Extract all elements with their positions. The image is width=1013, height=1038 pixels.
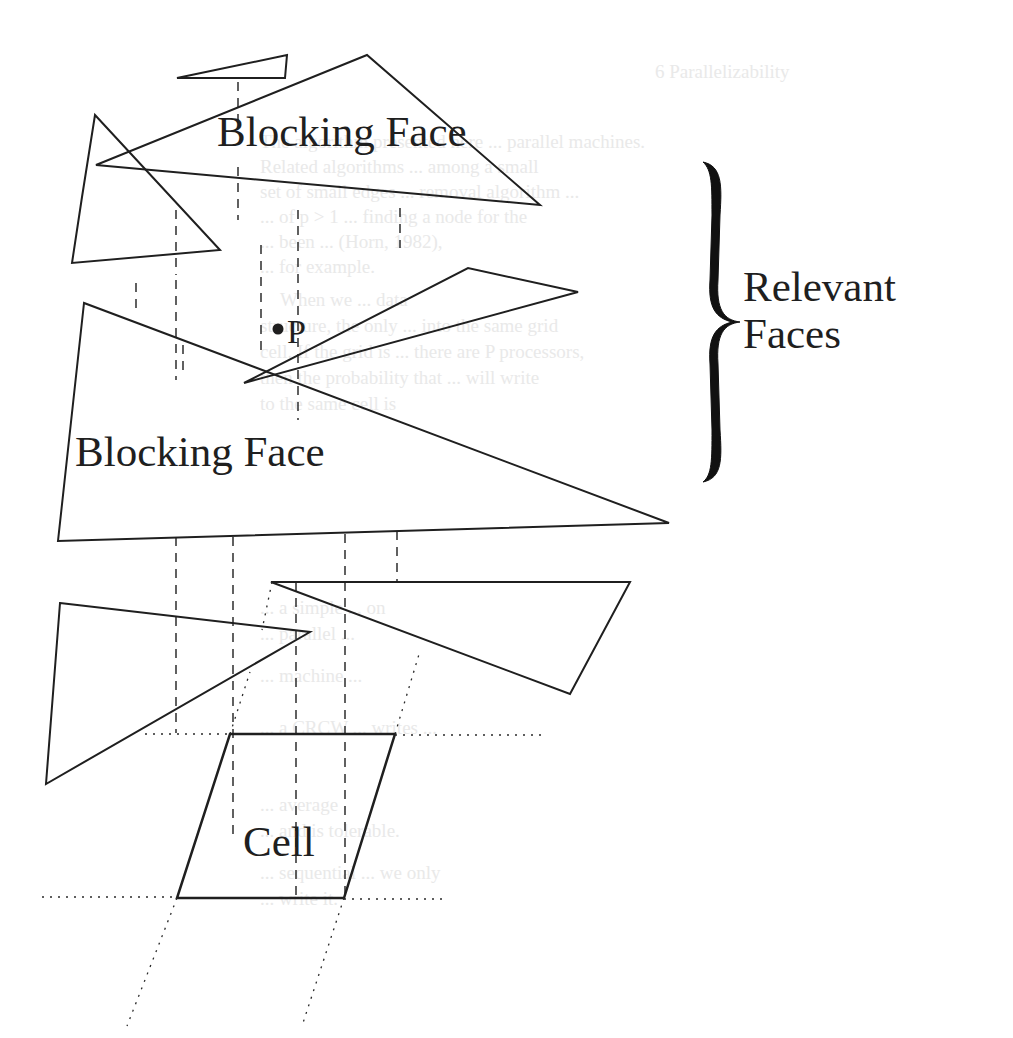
blocking-face-mid-label: Blocking Face <box>75 430 325 473</box>
cell-parallelogram <box>177 734 395 898</box>
point-p-label: P <box>287 315 306 349</box>
small-top-triangle <box>177 55 287 78</box>
cell-label: Cell <box>243 820 315 863</box>
lower-right-triangle <box>271 582 630 694</box>
diagram-drawing <box>0 0 1013 1038</box>
lower-left-triangle <box>46 603 310 784</box>
blocking-face-top-label: Blocking Face <box>217 110 467 153</box>
blocking-face-mid <box>58 303 669 541</box>
figure-canvas: 6 Parallelizability The algorithm presen… <box>0 0 1013 1038</box>
curly-brace-icon <box>703 162 740 482</box>
left-relevant-triangle <box>72 115 220 263</box>
point-p-dot <box>273 324 284 335</box>
relevant-faces-label-line1: Relevant <box>743 265 896 308</box>
projection-lines <box>136 82 400 898</box>
cell-boundary-lines <box>42 582 545 1026</box>
relevant-faces-label-line2: Faces <box>743 312 841 355</box>
